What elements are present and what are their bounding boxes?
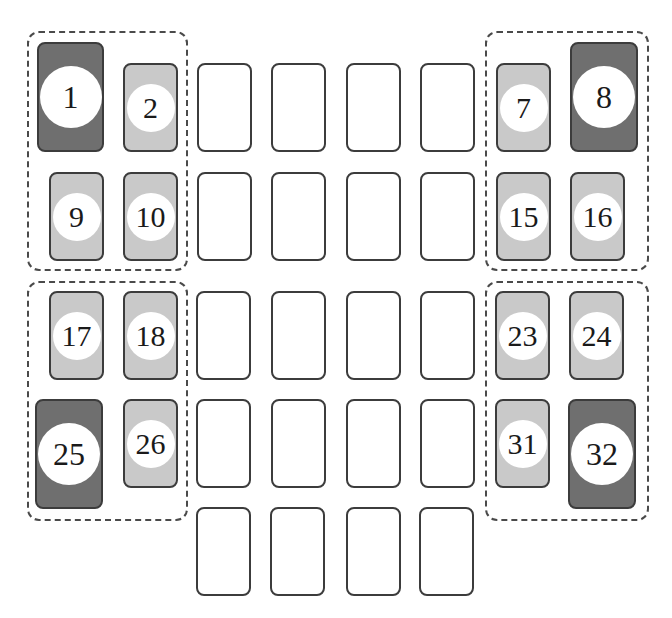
fuse-slot-16: 16 (570, 172, 625, 261)
fuse-label-16: 16 (574, 193, 622, 241)
empty-slot (346, 507, 401, 596)
fuse-label-17: 17 (53, 312, 101, 360)
fuse-label-23: 23 (499, 312, 547, 360)
fuse-slot-15: 15 (496, 172, 551, 261)
fuse-slot-9: 9 (49, 172, 104, 261)
fuse-label-26: 26 (127, 420, 175, 468)
empty-slot (271, 399, 326, 488)
fuse-slot-26: 26 (123, 399, 178, 488)
empty-slot (271, 291, 326, 380)
empty-slot (196, 399, 251, 488)
fuse-slot-31: 31 (495, 399, 550, 488)
empty-slot (420, 399, 475, 488)
fuse-slot-10: 10 (123, 172, 178, 261)
empty-slot (419, 507, 474, 596)
empty-slot (197, 172, 252, 261)
empty-slot (420, 291, 475, 380)
fuse-slot-2: 2 (123, 63, 178, 152)
empty-slot (196, 291, 251, 380)
empty-slot (196, 507, 251, 596)
fuse-label-24: 24 (573, 312, 621, 360)
empty-slot (420, 63, 475, 152)
empty-slot (346, 399, 401, 488)
empty-slot (346, 63, 401, 152)
fuse-label-8: 8 (573, 66, 635, 128)
fuse-label-2: 2 (127, 84, 175, 132)
empty-slot (271, 172, 326, 261)
fuse-slot-25: 25 (35, 399, 103, 509)
fuse-slot-8: 8 (570, 42, 638, 152)
fuse-label-18: 18 (127, 312, 175, 360)
fuse-label-10: 10 (127, 193, 175, 241)
fuse-slot-1: 1 (37, 42, 104, 152)
fuse-label-15: 15 (500, 193, 548, 241)
fuse-label-32: 32 (571, 423, 633, 485)
fuse-label-25: 25 (38, 423, 100, 485)
fuse-slot-32: 32 (568, 399, 636, 509)
fuse-slot-18: 18 (123, 291, 178, 380)
fuse-slot-17: 17 (49, 291, 104, 380)
fuse-slot-7: 7 (496, 63, 551, 152)
fuse-label-7: 7 (500, 84, 548, 132)
empty-slot (420, 172, 475, 261)
fuse-label-1: 1 (40, 66, 102, 128)
empty-slot (346, 172, 401, 261)
empty-slot (197, 63, 252, 152)
fuse-slot-23: 23 (495, 291, 550, 380)
fuse-label-31: 31 (499, 420, 547, 468)
fuse-label-9: 9 (53, 193, 101, 241)
fuse-slot-24: 24 (569, 291, 624, 380)
empty-slot (270, 507, 325, 596)
empty-slot (346, 291, 401, 380)
empty-slot (271, 63, 326, 152)
